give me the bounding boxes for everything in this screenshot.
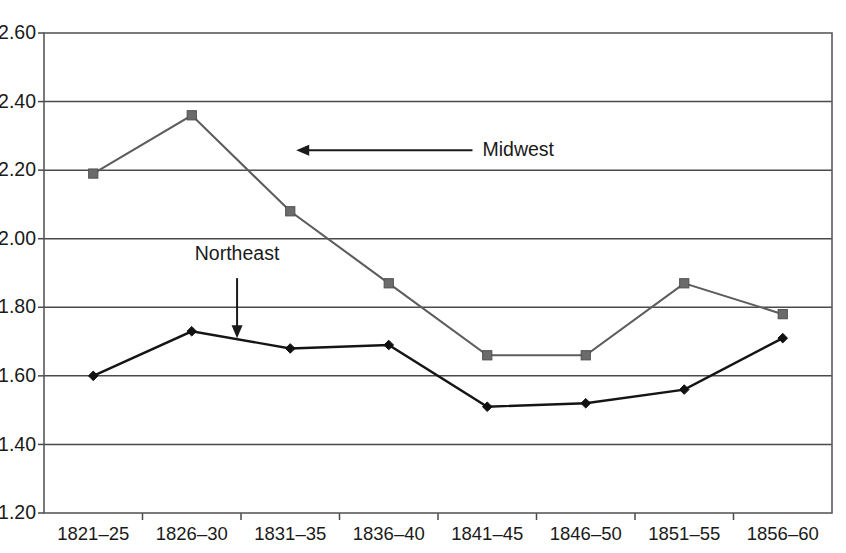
- x-axis-tick-label: 1851–55: [648, 523, 720, 544]
- y-axis-tick-label: 2.00: [0, 227, 36, 249]
- x-axis-tick-label: 1841–45: [451, 523, 523, 544]
- x-axis-tick-label: 1856–60: [747, 523, 819, 544]
- x-axis-tick-label: 1846–50: [550, 523, 622, 544]
- data-point-marker: [778, 333, 788, 343]
- chart-container: 1.201.401.601.802.002.202.402.60 1821–25…: [0, 0, 846, 553]
- y-axis-tick-label: 1.60: [0, 364, 36, 386]
- series-line-midwest: [93, 115, 783, 355]
- data-point-marker: [679, 385, 689, 395]
- data-point-marker: [286, 207, 295, 216]
- x-axis-ticks-group: [143, 513, 734, 520]
- x-axis-tick-label: 1821–25: [57, 523, 129, 544]
- y-axis-tick-label: 2.20: [0, 158, 36, 180]
- x-axis-tick-label: 1836–40: [353, 523, 425, 544]
- data-point-marker: [187, 326, 197, 336]
- data-point-marker: [581, 398, 591, 408]
- annotation-arrowhead-midwest: [296, 145, 309, 156]
- annotation-label-midwest: Midwest: [482, 138, 554, 160]
- data-point-marker: [483, 351, 492, 360]
- data-point-marker: [89, 169, 98, 178]
- y-axis-tick-label: 2.40: [0, 90, 36, 112]
- x-axis-tick-labels: 1821–251826–301831–351836–401841–451846–…: [57, 523, 819, 544]
- x-axis-tick-label: 1831–35: [254, 523, 326, 544]
- y-axis-tick-label: 1.80: [0, 295, 36, 317]
- y-axis-tick-label: 1.40: [0, 433, 36, 455]
- x-axis-tick-label: 1826–30: [156, 523, 228, 544]
- data-point-marker: [778, 310, 787, 319]
- gridlines-group: [44, 102, 832, 445]
- data-point-marker: [680, 279, 689, 288]
- plot-area-frame: [44, 33, 832, 513]
- series-line-northeast: [93, 331, 783, 406]
- y-axis-tick-label: 2.60: [0, 21, 36, 43]
- data-point-marker: [384, 279, 393, 288]
- data-point-marker: [187, 111, 196, 120]
- data-point-marker: [285, 344, 295, 354]
- y-axis-tick-labels: 1.201.401.601.802.002.202.402.60: [0, 21, 44, 523]
- y-axis-tick-label: 1.20: [0, 501, 36, 523]
- data-point-marker: [581, 351, 590, 360]
- annotation-label-northeast: Northeast: [195, 242, 280, 264]
- annotation-arrowhead-northeast: [232, 325, 243, 338]
- line-chart: 1.201.401.601.802.002.202.402.60 1821–25…: [0, 0, 846, 553]
- series-group-midwest: [89, 111, 788, 360]
- series-group-northeast: [88, 326, 787, 411]
- data-point-marker: [88, 371, 98, 381]
